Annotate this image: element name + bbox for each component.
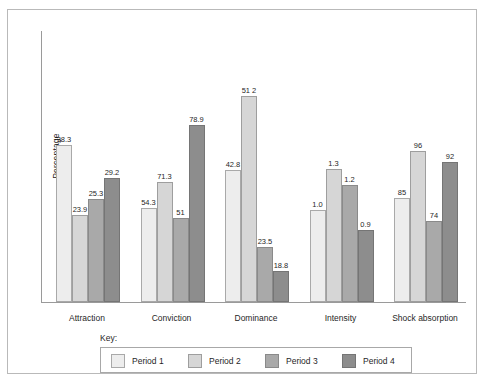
legend-swatch [111, 354, 125, 368]
x-axis-line [41, 302, 466, 303]
bar-value-label: 18.8 [266, 261, 296, 270]
bar-group: 42.851 223.518.8 [225, 31, 289, 302]
bar-value-label: 0.9 [351, 220, 381, 229]
bar-value-label: 71.3 [150, 172, 180, 181]
bar[interactable] [225, 170, 241, 302]
bar[interactable] [141, 208, 157, 302]
bar-value-label: 1.3 [319, 159, 349, 168]
bar[interactable] [56, 145, 72, 302]
legend-box: Period 1Period 2Period 3Period 4 [100, 347, 412, 373]
bar[interactable] [189, 125, 205, 302]
bar[interactable] [358, 230, 374, 302]
x-axis-label: Shock absorption [375, 313, 475, 323]
legend-title: Key: [100, 333, 117, 343]
legend-swatch [188, 354, 202, 368]
legend-label: Period 4 [363, 356, 395, 366]
plot-area: Percentage 38.323.925.329.254.371.35178.… [41, 31, 466, 311]
bar-value-label: 38.3 [49, 135, 79, 144]
bar-value-label: 78.9 [182, 115, 212, 124]
bar[interactable] [426, 221, 442, 302]
bar[interactable] [442, 162, 458, 302]
bar[interactable] [342, 185, 358, 302]
bar[interactable] [410, 151, 426, 302]
bar-group: 54.371.35178.9 [141, 31, 205, 302]
bar[interactable] [257, 247, 273, 302]
bar[interactable] [310, 210, 326, 302]
bar[interactable] [241, 96, 257, 302]
bar-value-label: 1.2 [335, 175, 365, 184]
legend-item[interactable]: Period 3 [265, 353, 318, 369]
bar-value-label: 96 [403, 141, 433, 150]
bar-value-label: 51 2 [234, 86, 264, 95]
bar-group: 85967492 [394, 31, 458, 302]
x-axis-category-labels: AttractionConvictionDominanceIntensitySh… [41, 313, 466, 327]
bar[interactable] [273, 271, 289, 302]
bar[interactable] [326, 169, 342, 302]
legend-item[interactable]: Period 2 [188, 353, 241, 369]
legend-label: Period 3 [286, 356, 318, 366]
legend-item[interactable]: Period 1 [111, 353, 164, 369]
legend-item[interactable]: Period 4 [342, 353, 395, 369]
bar-value-label: 23.5 [250, 237, 280, 246]
legend-swatch [342, 354, 356, 368]
bar-value-label: 29.2 [97, 168, 127, 177]
chart-frame: Percentage 38.323.925.329.254.371.35178.… [7, 9, 477, 374]
bar-value-label: 92 [435, 152, 465, 161]
legend-label: Period 2 [209, 356, 241, 366]
bar[interactable] [88, 199, 104, 302]
legend-swatch [265, 354, 279, 368]
bar[interactable] [173, 218, 189, 302]
legend-label: Period 1 [132, 356, 164, 366]
bar-group: 38.323.925.329.2 [56, 31, 120, 302]
bar[interactable] [394, 198, 410, 302]
bar[interactable] [72, 215, 88, 302]
bar[interactable] [157, 182, 173, 302]
bar-groups: 38.323.925.329.254.371.35178.942.851 223… [42, 31, 466, 302]
bar-group: 1.01.31.20.9 [310, 31, 374, 302]
bar[interactable] [104, 178, 120, 302]
